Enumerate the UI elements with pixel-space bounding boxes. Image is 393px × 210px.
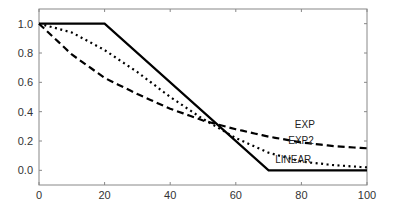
x-tick-label: 0 [36, 189, 42, 201]
plot-border [39, 9, 367, 185]
label-exp2: EXP2 [288, 135, 314, 146]
y-tick-label: 0.0 [18, 164, 33, 176]
y-tick-label: 0.4 [18, 106, 33, 118]
y-tick-label: 0.2 [18, 135, 33, 147]
y-tick-label: 0.8 [18, 47, 33, 59]
series-labels: EXPEXP2LINEAR [275, 119, 315, 165]
x-tick-label: 60 [230, 189, 242, 201]
x-tick-label: 80 [295, 189, 307, 201]
label-exp: EXP [295, 119, 315, 130]
x-tick-label: 20 [98, 189, 110, 201]
y-tick-label: 0.6 [18, 76, 33, 88]
x-tick-label: 40 [164, 189, 176, 201]
series-exp2 [39, 24, 367, 168]
label-linear: LINEAR [275, 154, 311, 165]
line-chart: 0204060801000.00.20.40.60.81.0 EXPEXP2LI… [0, 0, 393, 210]
series-exp [39, 24, 367, 149]
series-lines [39, 24, 367, 171]
x-tick-label: 100 [358, 189, 376, 201]
axes-frame [39, 9, 367, 185]
series-linear [39, 24, 367, 171]
y-tick-label: 1.0 [18, 18, 33, 30]
